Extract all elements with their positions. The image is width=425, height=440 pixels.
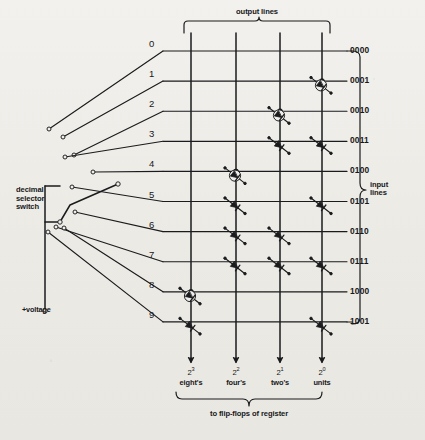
switch-lead-3: [65, 141, 163, 157]
switch-lead-9: [48, 232, 163, 322]
column-power-units: 20: [318, 366, 325, 377]
register-brace: [176, 392, 322, 406]
column-name-twos: two's: [271, 379, 289, 387]
diode-tap-col: [244, 182, 247, 185]
decimal-digit-1: 1: [149, 69, 154, 79]
output-arrow-2: [277, 358, 282, 363]
diode-row-7-col-1: [224, 257, 247, 275]
switch-lead-7: [56, 227, 163, 262]
diode-tap-col: [330, 272, 333, 275]
output-arrow-3: [319, 358, 324, 363]
diode-group: [179, 76, 333, 335]
diode-tap-row: [224, 227, 227, 230]
diagram-static-wiring: [176, 17, 366, 406]
decimal-digit-3: 3: [149, 129, 154, 139]
diode-tap-row: [224, 197, 227, 200]
switch-contact-5: [70, 185, 74, 189]
switch-lead-0: [49, 51, 163, 129]
switch-contact-3: [63, 155, 67, 159]
switch-contact-4: [91, 170, 95, 174]
diode-row-9-col-0: [179, 317, 202, 335]
switch-contact-1: [61, 135, 65, 139]
diode-row-6-col-2: [268, 227, 291, 245]
selector-switch-group: [43, 51, 163, 322]
diode-tap-row: [179, 287, 182, 290]
output-arrow-1: [233, 358, 238, 363]
switch-wiper-tip: [116, 182, 120, 186]
diode-tap-row: [268, 137, 271, 140]
switch-contact-0: [47, 127, 51, 131]
binary-code-0100: 0100: [350, 166, 369, 175]
diode-tap-col: [288, 242, 291, 245]
decimal-digit-4: 4: [149, 159, 154, 169]
switch-contact-6: [73, 210, 77, 214]
binary-code-0101: 0101: [350, 197, 369, 206]
binary-code-0000: 0000: [350, 46, 369, 55]
binary-code-0111: 0111: [350, 257, 369, 266]
diode-tap-row: [268, 257, 271, 260]
diode-matrix-diagram: [0, 0, 425, 440]
column-power-fours: 22: [232, 366, 239, 377]
decimal-digit-2: 2: [149, 99, 154, 109]
input-lines-brace: [352, 51, 366, 324]
figure-canvas: 0123456789000000010010001101000101011001…: [0, 0, 425, 440]
switch-contact-7: [54, 225, 58, 229]
column-power-eights: 23: [187, 366, 194, 377]
decimal-digit-8: 8: [149, 280, 154, 290]
voltage-label: +voltage: [22, 306, 51, 314]
diode-row-6-col-1: [224, 227, 247, 245]
diode-row-7-col-2: [268, 257, 291, 275]
switch-pivot: [58, 220, 62, 224]
diode-tap-row: [310, 76, 313, 79]
diode-tap-col: [244, 272, 247, 275]
binary-code-1001: 1001: [350, 317, 369, 326]
diode-tap-row: [224, 257, 227, 260]
diode-tap-row: [179, 317, 182, 320]
diode-tap-col: [330, 333, 333, 336]
decimal-digit-9: 9: [149, 310, 154, 320]
decimal-digit-6: 6: [149, 220, 154, 230]
diode-row-5-col-1: [224, 197, 247, 215]
decimal-digit-5: 5: [149, 190, 154, 200]
diode-tap-col: [199, 333, 202, 336]
output-lines-brace: [184, 17, 330, 33]
diode-tap-row: [310, 317, 313, 320]
binary-code-0001: 0001: [350, 76, 369, 85]
diode-tap-col: [199, 303, 202, 306]
diode-tap-row: [310, 257, 313, 260]
diode-tap-col: [288, 122, 291, 125]
diode-tap-row: [268, 227, 271, 230]
output-lines-label: output lines: [236, 8, 278, 16]
diode-tap-col: [330, 92, 333, 95]
binary-code-0110: 0110: [350, 227, 369, 236]
decimal-digit-0: 0: [149, 39, 154, 49]
register-label: to flip-flops of register: [210, 410, 288, 418]
diode-tap-col: [288, 152, 291, 155]
diode-tap-row: [268, 106, 271, 109]
binary-code-0010: 0010: [350, 106, 369, 115]
switch-contact-9: [46, 230, 50, 234]
binary-code-0011: 0011: [350, 136, 369, 145]
column-lines-group: [188, 33, 324, 363]
diode-tap-row: [224, 167, 227, 170]
output-arrow-0: [188, 358, 193, 363]
switch-contact-8: [62, 226, 66, 230]
column-name-fours: four's: [226, 379, 246, 387]
decimal-selector-switch-label: decimal selector switch: [16, 186, 44, 212]
diode-tap-row: [310, 137, 313, 140]
diode-tap-row: [310, 197, 313, 200]
column-name-units: units: [313, 379, 330, 387]
diode-row-3-col-2: [268, 137, 291, 155]
diode-tap-col: [244, 212, 247, 215]
column-name-eights: eight's: [180, 379, 203, 387]
diode-row-9-col-3: [310, 317, 333, 335]
diode-tap-col: [288, 272, 291, 275]
diode-row-7-col-3: [310, 257, 333, 275]
diode-tap-col: [330, 152, 333, 155]
binary-code-1000: 1000: [350, 287, 369, 296]
column-power-twos: 21: [276, 366, 283, 377]
switch-lead-4: [93, 171, 163, 172]
decimal-digit-7: 7: [149, 250, 154, 260]
diode-tap-col: [330, 212, 333, 215]
switch-wiper-arm: [45, 184, 118, 222]
